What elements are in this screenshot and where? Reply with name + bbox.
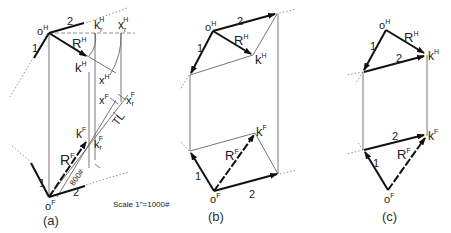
label-of: oF <box>384 192 394 205</box>
tick-xrf <box>118 94 126 100</box>
panel-a: oH 2 1 RH kH krH xrH xH xF xrF TL kF krF… <box>10 8 135 228</box>
dotted-h-left-bottom <box>347 150 363 154</box>
label-2-top: 2 <box>237 15 243 27</box>
panel-c: oH 1 RH 2 kH 2 kF RF 1 oF (c) <box>347 18 439 224</box>
caption-a: (a) <box>43 213 59 228</box>
label-of: oF <box>210 192 220 205</box>
label-oh: oH <box>379 18 390 31</box>
label-kf: kF <box>76 126 86 141</box>
label-oh: oH <box>37 24 48 37</box>
dotted-1-bottom <box>180 141 189 151</box>
label-xh: xH <box>99 73 110 86</box>
label-tl: TL <box>110 110 127 128</box>
caption-b: (b) <box>208 209 224 224</box>
tick-krf <box>95 164 100 168</box>
dotted-2-bottom <box>280 170 296 174</box>
label-2-bottom: 2 <box>392 130 398 142</box>
dotted-1-top <box>355 72 363 84</box>
label-xrf: xrF <box>126 91 135 107</box>
label-xf: xF <box>99 93 109 106</box>
label-krh: krH <box>94 16 104 33</box>
label-length: 800# <box>68 167 86 187</box>
label-kh: kH <box>428 48 439 63</box>
label-of: oF <box>45 199 55 212</box>
label-xrh: xrH <box>118 16 128 33</box>
dotted-extension-2-bottom <box>86 172 128 185</box>
label-2-bottom: 2 <box>249 188 255 200</box>
label-rh: RH <box>404 30 418 45</box>
vector-2-top <box>364 56 424 72</box>
dotted-1-bottom <box>357 141 363 150</box>
dotted-h-left-top <box>347 72 363 75</box>
label-2-bottom: 2 <box>73 186 79 198</box>
parallelogram-side-right-bottom <box>255 133 278 174</box>
caption-c: (c) <box>382 209 397 224</box>
dotted-extension-1-bottom <box>12 146 31 162</box>
label-1-top: 1 <box>32 42 38 54</box>
label-rh: RH <box>72 36 86 51</box>
dotted-2-top <box>276 9 296 14</box>
scale-note: Scale 1"=1000# <box>113 200 170 209</box>
label-rf: RF <box>60 152 74 168</box>
rf-extension <box>57 100 116 197</box>
label-1-bottom: 1 <box>39 177 45 189</box>
dotted-1-top <box>180 75 189 90</box>
rotation-arc-x <box>110 33 121 75</box>
label-2-top: 2 <box>67 15 73 27</box>
label-1-top: 1 <box>370 40 376 52</box>
vector-2-top <box>213 14 275 31</box>
vector-diagram: oH 2 1 RH kH krH xrH xH xF xrF TL kF krF… <box>0 0 451 233</box>
vector-rf <box>388 138 425 190</box>
parallelogram-side-right-top <box>253 14 277 55</box>
label-rh: RH <box>234 33 248 48</box>
label-1-top: 1 <box>197 42 203 54</box>
label-1-bottom: 1 <box>373 157 379 169</box>
label-krf: krF <box>94 135 103 151</box>
label-2-top: 2 <box>396 52 402 64</box>
panel-b: oH 2 1 RH kH kF RF 1 2 oF (b) <box>180 9 296 224</box>
label-kh: kH <box>255 52 267 67</box>
label-kh: kH <box>75 60 87 75</box>
label-kf: kF <box>428 128 438 143</box>
label-kf: kF <box>256 124 267 139</box>
label-1-bottom: 1 <box>195 170 201 182</box>
